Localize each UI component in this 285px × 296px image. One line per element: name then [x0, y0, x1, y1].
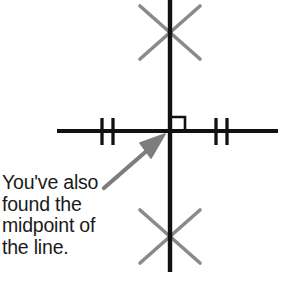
- midpoint-caption: You've also found the midpoint of the li…: [2, 172, 142, 258]
- caption-line-2: found the: [2, 194, 142, 216]
- caption-line-3: midpoint of: [2, 215, 142, 237]
- caption-line-1: You've also: [2, 172, 142, 194]
- caption-line-4: the line.: [2, 237, 142, 259]
- midpoint-construction-diagram: You've also found the midpoint of the li…: [0, 0, 285, 296]
